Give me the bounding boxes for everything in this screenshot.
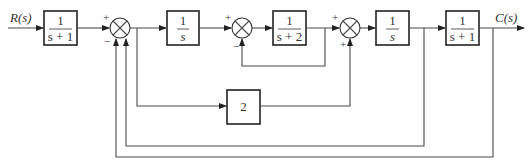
block-k-gain: 2 xyxy=(240,99,247,114)
block-g3-denominator: s + 2 xyxy=(277,29,302,44)
s1-plus-sign: + xyxy=(103,11,109,23)
block-diagram: R(s) 1 s + 1 + − 1 s + − 1 s + 2 xyxy=(0,0,532,161)
block-g5-numerator: 1 xyxy=(459,13,466,28)
block-g5-denominator: s + 1 xyxy=(450,29,475,44)
block-g1-numerator: 1 xyxy=(57,13,64,28)
summing-junction-s2: + − xyxy=(225,11,252,52)
s2-plus-sign: + xyxy=(225,11,231,23)
block-k: 2 xyxy=(227,90,260,124)
s2-minus-sign: − xyxy=(233,40,239,52)
block-g4-denominator: s xyxy=(390,29,395,44)
summing-junction-s3: + + xyxy=(332,11,360,50)
block-g3: 1 s + 2 xyxy=(273,11,306,45)
block-g4: 1 s xyxy=(376,11,409,45)
s1-minus-sign: − xyxy=(104,35,110,47)
block-g1-denominator: s + 1 xyxy=(48,29,73,44)
block-g3-numerator: 1 xyxy=(286,13,293,28)
block-g2: 1 s xyxy=(167,11,199,45)
block-g1: 1 s + 1 xyxy=(44,11,77,45)
s3-plus-sign-bottom: + xyxy=(340,38,346,50)
feedback-line-output xyxy=(116,28,493,157)
input-label: R(s) xyxy=(9,10,32,25)
block-g4-numerator: 1 xyxy=(389,13,396,28)
feedforward-line-to-s3 xyxy=(260,39,350,106)
s3-plus-sign-left: + xyxy=(332,11,338,23)
block-g5: 1 s + 1 xyxy=(446,11,479,45)
block-g2-numerator: 1 xyxy=(180,13,187,28)
output-label: C(s) xyxy=(495,10,517,25)
block-g2-denominator: s xyxy=(180,29,185,44)
